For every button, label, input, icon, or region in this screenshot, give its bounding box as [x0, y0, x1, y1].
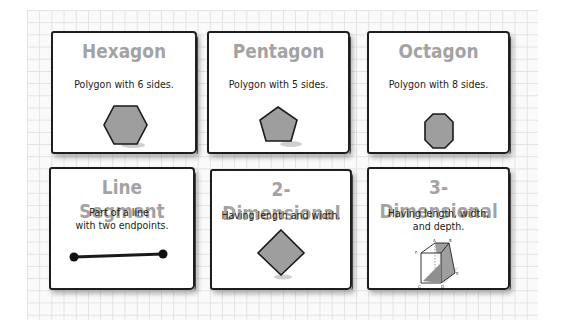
card-description-line1: Having length, width, [376, 207, 501, 220]
card-description: Polygon with 5 sides. [216, 78, 341, 91]
card-2-dimensional: 2-Dimensional Having length and width. [210, 169, 352, 290]
pentagon-icon [259, 106, 305, 148]
card-description-line1: Part of a line [52, 206, 185, 219]
card-description-line2: and depth. [376, 220, 501, 233]
cube-vertex-label: C [418, 284, 421, 289]
line-segment-icon [67, 248, 171, 264]
card-title: Hexagon [64, 39, 185, 63]
cube-vertex-label: D [441, 284, 444, 289]
diamond-square-icon [257, 229, 307, 281]
hexagon-icon [103, 105, 149, 147]
cube-vertex-label: E [456, 271, 459, 276]
card-description: Polygon with 6 sides. [60, 78, 188, 91]
octagon-icon [424, 113, 458, 151]
cube-vertex-label: A [433, 238, 436, 243]
cube-vertex-label: B [449, 238, 452, 243]
card-octagon: Octagon Polygon with 8 sides. [367, 31, 510, 154]
card-pentagon: Pentagon Polygon with 5 sides. [207, 31, 350, 154]
card-description: Polygon with 8 sides. [376, 78, 501, 91]
card-title: Octagon [379, 39, 497, 63]
cube-vertex-label: F [415, 250, 418, 255]
card-description: Having length and width. [219, 209, 343, 222]
card-hexagon: Hexagon Polygon with 6 sides. [51, 31, 197, 154]
cube-icon: A B F E C D [411, 239, 471, 289]
card-3-dimensional: 3-Dimensional Having length, width, and … [367, 167, 510, 290]
card-description-line2: with two endpoints. [58, 219, 186, 232]
card-title: Pentagon [219, 39, 337, 63]
card-line-segment: Line Segment Part of a line with two end… [49, 167, 195, 290]
